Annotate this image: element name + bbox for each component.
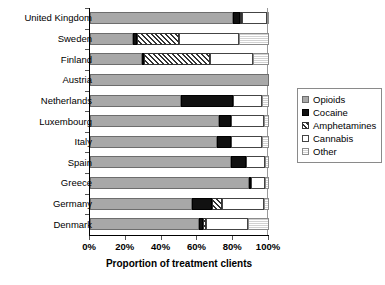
x-axis-line xyxy=(89,235,269,236)
legend-label: Other xyxy=(313,146,337,157)
x-axis-tick-label: 100% xyxy=(248,241,288,252)
x-axis-tick xyxy=(196,236,197,240)
bar-segment-co xyxy=(231,156,245,168)
legend-item-amphetamines: Amphetamines xyxy=(302,119,376,132)
plot-area xyxy=(89,8,268,235)
y-axis-label-sweden: Sweden xyxy=(58,33,92,44)
x-axis-tick xyxy=(161,236,162,240)
legend-item-cocaine: Cocaine xyxy=(302,106,376,119)
y-axis-tick xyxy=(85,214,89,215)
y-axis-tick xyxy=(85,91,89,92)
bar-row xyxy=(90,152,269,173)
bar-row xyxy=(90,132,269,153)
bar-segment-ca xyxy=(242,12,267,24)
bar-segment-ot xyxy=(262,136,269,148)
bar-row xyxy=(90,49,269,70)
bar-row xyxy=(90,111,269,132)
stacked-bar xyxy=(90,12,269,24)
x-axis-tick xyxy=(268,236,269,240)
x-axis-tick-label: 0% xyxy=(69,241,109,252)
legend-swatch-ot-icon xyxy=(302,148,309,155)
bar-segment-ca xyxy=(179,33,238,45)
bar-segment-ot xyxy=(265,177,269,189)
bar-segment-ca xyxy=(222,198,263,210)
legend-swatch-ca-icon xyxy=(302,135,309,142)
y-axis-label-netherlands: Netherlands xyxy=(41,95,92,106)
bar-segment-co xyxy=(219,115,232,127)
stacked-bar-chart: United KingdomSwedenFinlandAustriaNether… xyxy=(0,0,385,285)
bar-segment-ot xyxy=(253,53,269,65)
bar-segment-ca xyxy=(251,177,265,189)
y-axis-tick xyxy=(85,111,89,112)
bar-segment-op xyxy=(90,33,133,45)
bar-segment-ca xyxy=(246,156,266,168)
bar-segment-ot xyxy=(265,156,269,168)
stacked-bar xyxy=(90,218,269,230)
legend-item-cannabis: Cannabis xyxy=(302,132,376,145)
stacked-bar xyxy=(90,33,269,45)
bar-segment-co xyxy=(192,198,212,210)
y-axis-label-united-kingdom: United Kingdom xyxy=(24,12,92,23)
y-axis-label-spain: Spain xyxy=(68,157,92,168)
bar-segment-ot xyxy=(264,198,269,210)
bar-segment-ot xyxy=(267,12,269,24)
bar-segment-ca xyxy=(233,95,262,107)
bar-segment-am xyxy=(137,33,180,45)
legend-item-other: Other xyxy=(302,145,376,158)
bar-row xyxy=(90,173,269,194)
stacked-bar xyxy=(90,198,269,210)
y-axis-tick xyxy=(85,8,89,9)
bar-row xyxy=(90,214,269,235)
bar-segment-ca xyxy=(210,53,253,65)
legend-label: Cannabis xyxy=(313,133,353,144)
bar-row xyxy=(90,29,269,50)
y-axis-tick xyxy=(85,132,89,133)
y-axis-label-denmark: Denmark xyxy=(53,219,92,230)
legend-swatch-am-icon xyxy=(302,122,309,129)
x-axis-tick xyxy=(89,236,90,240)
y-axis-tick xyxy=(85,29,89,30)
y-axis-label-italy: Italy xyxy=(75,136,92,147)
y-axis-tick xyxy=(85,173,89,174)
stacked-bar xyxy=(90,74,269,86)
x-axis-tick xyxy=(232,236,233,240)
y-axis-label-germany: Germany xyxy=(53,198,92,209)
bar-segment-co xyxy=(181,95,233,107)
bar-segment-ca xyxy=(231,136,261,148)
x-axis-tick-label: 80% xyxy=(212,241,252,252)
stacked-bar xyxy=(90,95,269,107)
legend-label: Opioids xyxy=(313,94,345,105)
bar-segment-op xyxy=(90,53,142,65)
y-axis-label-finland: Finland xyxy=(61,54,92,65)
bar-segment-ot xyxy=(264,115,269,127)
x-axis-tick-label: 40% xyxy=(141,241,181,252)
stacked-bar xyxy=(90,53,269,65)
bar-row xyxy=(90,194,269,215)
legend-swatch-co-icon xyxy=(302,109,309,116)
legend-item-opioids: Opioids xyxy=(302,93,376,106)
bar-segment-op xyxy=(90,95,181,107)
stacked-bar xyxy=(90,115,269,127)
y-axis-tick xyxy=(85,49,89,50)
bar-segment-op xyxy=(90,74,269,86)
bar-segment-co xyxy=(217,136,231,148)
bar-segment-op xyxy=(90,12,233,24)
bar-segment-ot xyxy=(248,218,269,230)
bar-segment-op xyxy=(90,218,199,230)
bar-segment-ca xyxy=(231,115,263,127)
y-axis-tick xyxy=(85,194,89,195)
x-axis-tick-label: 20% xyxy=(105,241,145,252)
bar-segment-co xyxy=(233,12,240,24)
bar-segment-op xyxy=(90,136,217,148)
bar-segment-ot xyxy=(262,95,269,107)
y-axis-label-luxembourg: Luxembourg xyxy=(39,116,92,127)
stacked-bar xyxy=(90,156,269,168)
legend-label: Amphetamines xyxy=(313,120,376,131)
bar-segment-op xyxy=(90,156,231,168)
bar-segment-op xyxy=(90,115,219,127)
bar-row xyxy=(90,91,269,112)
y-axis-tick xyxy=(85,152,89,153)
bar-segment-ot xyxy=(239,33,269,45)
bar-row xyxy=(90,70,269,91)
bar-segment-op xyxy=(90,177,249,189)
